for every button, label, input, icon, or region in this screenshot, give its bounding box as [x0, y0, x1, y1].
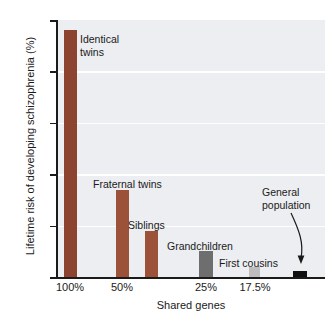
- schizophrenia-risk-bar-chart: 50 40 30 20 10 0 Lifetime risk of develo…: [0, 0, 335, 328]
- bar-grandchildren: [199, 251, 213, 277]
- plot-area: [57, 20, 325, 277]
- gridline-40: [57, 71, 325, 73]
- bar-label-fraternal-twins: Fraternal twins: [93, 178, 162, 191]
- y-tick-mark-10: [50, 226, 56, 228]
- gridline-30: [57, 123, 325, 125]
- y-tick-mark-40: [50, 71, 56, 73]
- bar-label-grandchildren: Grandchildren: [167, 240, 233, 253]
- bar-siblings: [145, 231, 158, 277]
- y-tick-mark-0: [50, 277, 56, 279]
- x-axis-line: [56, 277, 325, 279]
- x-tick-label-17-5: 17.5%: [225, 281, 285, 293]
- bar-label-identical-twins: Identical twins: [80, 33, 119, 58]
- x-tick-label-100: 100%: [40, 281, 100, 293]
- gridline-10: [57, 226, 325, 228]
- gridline-20: [57, 174, 325, 176]
- bar-label-siblings: Siblings: [128, 219, 165, 232]
- y-axis-line: [56, 20, 58, 278]
- y-tick-mark-20: [50, 174, 56, 176]
- bar-identical-twins: [64, 30, 77, 277]
- x-tick-label-50: 50%: [92, 281, 152, 293]
- y-tick-mark-30: [50, 123, 56, 125]
- bar-label-general-population: General population: [262, 186, 310, 211]
- y-axis-title: Lifetime risk of developing schizophreni…: [24, 11, 36, 281]
- bar-fraternal-twins: [116, 190, 129, 277]
- y-tick-mark-50: [50, 20, 56, 22]
- x-axis-title: Shared genes: [57, 299, 325, 311]
- bar-label-first-cousins: First cousins: [219, 257, 278, 270]
